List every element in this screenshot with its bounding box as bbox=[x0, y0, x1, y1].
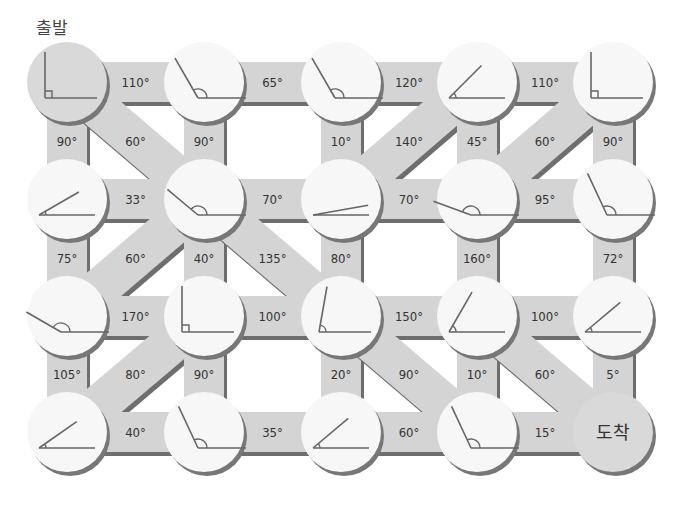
end-label: 도착 bbox=[596, 422, 630, 443]
road-angle-label: 90° bbox=[57, 134, 78, 149]
angle-node[interactable] bbox=[301, 42, 384, 126]
road-angle-label: 100° bbox=[258, 309, 286, 324]
road-angle-label: 160° bbox=[463, 251, 491, 266]
node-circle bbox=[437, 159, 517, 239]
road-angle-label: 35° bbox=[262, 425, 283, 440]
road-angle-label: 65° bbox=[262, 75, 283, 90]
angle-node[interactable] bbox=[437, 392, 520, 476]
node-circle bbox=[573, 42, 653, 122]
node-circle bbox=[164, 159, 244, 239]
road-angle-label: 105° bbox=[53, 367, 81, 382]
road-angle-label: 70° bbox=[262, 192, 283, 207]
angle-maze: 110°65°120°110°90°60°90°10°140°45°60°90°… bbox=[0, 0, 680, 506]
node-circle bbox=[573, 276, 653, 356]
road-angle-label: 60° bbox=[535, 134, 556, 149]
road-angle-label: 90° bbox=[399, 367, 420, 382]
node-circle bbox=[164, 42, 244, 122]
node-circle bbox=[301, 392, 381, 472]
angle-node[interactable] bbox=[573, 159, 656, 243]
road-angle-label: 60° bbox=[125, 134, 146, 149]
angle-node[interactable] bbox=[437, 276, 520, 360]
road-angle-label: 40° bbox=[125, 425, 146, 440]
road-angle-label: 90° bbox=[603, 134, 624, 149]
node-circle bbox=[301, 42, 381, 122]
node-circle bbox=[164, 276, 244, 356]
road-angle-label: 45° bbox=[467, 134, 488, 149]
node-circle bbox=[27, 276, 107, 356]
angle-node[interactable] bbox=[301, 392, 384, 476]
node-circle bbox=[437, 392, 517, 472]
road-angle-label: 40° bbox=[194, 251, 215, 266]
road-angle-label: 120° bbox=[395, 75, 423, 90]
start-node[interactable] bbox=[27, 42, 110, 126]
angle-node[interactable] bbox=[27, 159, 110, 243]
road-angle-label: 70° bbox=[399, 192, 420, 207]
road-angle-label: 135° bbox=[258, 251, 286, 266]
road-angle-label: 90° bbox=[194, 134, 215, 149]
road-angle-label: 140° bbox=[395, 134, 423, 149]
road-angle-label: 110° bbox=[531, 75, 559, 90]
node-circle bbox=[573, 159, 653, 239]
road-angle-label: 170° bbox=[121, 309, 149, 324]
node-circle bbox=[437, 276, 517, 356]
road-angle-label: 5° bbox=[606, 367, 619, 382]
node-circle bbox=[27, 392, 107, 472]
road-angle-label: 60° bbox=[535, 367, 556, 382]
road-angle-label: 75° bbox=[57, 251, 78, 266]
road-angle-label: 10° bbox=[331, 134, 352, 149]
angle-node[interactable] bbox=[573, 276, 656, 360]
road-angle-label: 20° bbox=[331, 367, 352, 382]
node-circle bbox=[27, 42, 107, 122]
angle-node[interactable] bbox=[164, 42, 247, 126]
end-node[interactable]: 도착 bbox=[573, 392, 656, 476]
angle-node[interactable] bbox=[301, 276, 384, 360]
road-angle-label: 72° bbox=[603, 251, 624, 266]
road-angle-label: 80° bbox=[331, 251, 352, 266]
node-circle bbox=[301, 276, 381, 356]
road-angle-label: 90° bbox=[194, 367, 215, 382]
road-angle-label: 10° bbox=[467, 367, 488, 382]
road-angle-label: 110° bbox=[121, 75, 149, 90]
road-angle-label: 150° bbox=[395, 309, 423, 324]
node-circle bbox=[301, 159, 381, 239]
road-angle-label: 60° bbox=[125, 251, 146, 266]
road-angle-label: 95° bbox=[535, 192, 556, 207]
angle-node[interactable] bbox=[164, 392, 247, 476]
road-angle-label: 60° bbox=[399, 425, 420, 440]
road-angle-label: 15° bbox=[535, 425, 556, 440]
road-angle-label: 80° bbox=[125, 367, 146, 382]
node-circle bbox=[437, 42, 517, 122]
node-circle bbox=[164, 392, 244, 472]
road-angle-label: 100° bbox=[531, 309, 559, 324]
road-angle-label: 33° bbox=[125, 192, 146, 207]
